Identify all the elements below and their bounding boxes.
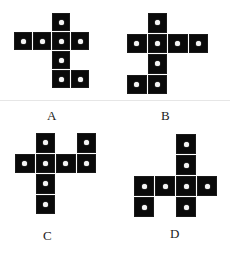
dot-square bbox=[176, 176, 196, 196]
dot-square bbox=[15, 154, 35, 174]
white-dot-icon bbox=[155, 20, 160, 25]
white-dot-icon bbox=[43, 140, 48, 145]
dot-square bbox=[168, 34, 188, 54]
dot-square bbox=[71, 32, 89, 50]
dot-square bbox=[148, 13, 168, 33]
option-b-label: B bbox=[161, 108, 170, 124]
white-dot-icon bbox=[22, 161, 27, 166]
dot-square bbox=[52, 51, 70, 69]
dot-square bbox=[52, 13, 70, 31]
white-dot-icon bbox=[163, 184, 168, 189]
dot-square bbox=[176, 155, 196, 175]
white-dot-icon bbox=[21, 39, 26, 44]
white-dot-icon bbox=[155, 41, 160, 46]
dot-square bbox=[36, 154, 56, 174]
dot-square bbox=[36, 174, 56, 194]
white-dot-icon bbox=[134, 82, 139, 87]
dot-square bbox=[36, 133, 56, 153]
white-dot-icon bbox=[63, 161, 68, 166]
dot-square bbox=[14, 32, 32, 50]
option-c-label: C bbox=[43, 228, 52, 244]
dot-square bbox=[155, 176, 175, 196]
separator-line bbox=[0, 100, 230, 101]
dot-square bbox=[148, 75, 168, 95]
white-dot-icon bbox=[184, 163, 189, 168]
white-dot-icon bbox=[184, 184, 189, 189]
white-dot-icon bbox=[184, 142, 189, 147]
white-dot-icon bbox=[59, 20, 64, 25]
white-dot-icon bbox=[175, 41, 180, 46]
white-dot-icon bbox=[43, 181, 48, 186]
white-dot-icon bbox=[78, 39, 83, 44]
white-dot-icon bbox=[40, 39, 45, 44]
option-a-label: A bbox=[47, 108, 56, 124]
dot-square bbox=[148, 54, 168, 74]
dot-square bbox=[197, 176, 217, 196]
dot-square bbox=[134, 197, 154, 217]
dot-square bbox=[176, 197, 196, 217]
white-dot-icon bbox=[43, 202, 48, 207]
white-dot-icon bbox=[184, 205, 189, 210]
dot-square bbox=[56, 154, 76, 174]
white-dot-icon bbox=[84, 140, 89, 145]
dot-square bbox=[127, 34, 147, 54]
white-dot-icon bbox=[78, 77, 83, 82]
dot-square bbox=[71, 70, 89, 88]
white-dot-icon bbox=[59, 77, 64, 82]
white-dot-icon bbox=[142, 184, 147, 189]
white-dot-icon bbox=[134, 41, 139, 46]
dot-square bbox=[52, 70, 70, 88]
white-dot-icon bbox=[196, 41, 201, 46]
dot-square bbox=[189, 34, 209, 54]
dot-square bbox=[134, 176, 154, 196]
dot-square bbox=[176, 134, 196, 154]
white-dot-icon bbox=[59, 39, 64, 44]
white-dot-icon bbox=[59, 58, 64, 63]
white-dot-icon bbox=[205, 184, 210, 189]
option-d-label: D bbox=[170, 226, 179, 242]
dot-square bbox=[36, 195, 56, 215]
white-dot-icon bbox=[155, 61, 160, 66]
dot-square bbox=[127, 75, 147, 95]
dot-square bbox=[52, 32, 70, 50]
dot-square bbox=[33, 32, 51, 50]
dot-square bbox=[77, 133, 97, 153]
dot-square bbox=[77, 154, 97, 174]
dot-square bbox=[148, 34, 168, 54]
white-dot-icon bbox=[43, 161, 48, 166]
white-dot-icon bbox=[142, 205, 147, 210]
white-dot-icon bbox=[155, 82, 160, 87]
white-dot-icon bbox=[84, 161, 89, 166]
